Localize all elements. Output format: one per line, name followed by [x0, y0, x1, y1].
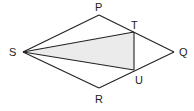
label-s: S — [9, 46, 16, 58]
label-p: P — [95, 1, 102, 13]
label-t: T — [131, 19, 138, 31]
kite-diagram: P T S Q U R — [0, 0, 194, 111]
label-u: U — [135, 74, 143, 86]
shaded-triangle-stu — [23, 32, 134, 70]
label-r: R — [95, 93, 103, 105]
label-q: Q — [179, 46, 188, 58]
